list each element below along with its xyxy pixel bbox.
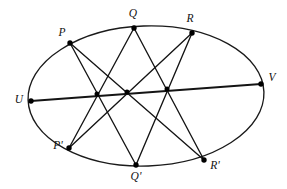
- point-label-Q2: Q': [131, 170, 142, 182]
- point-labels-group: PQRVUP'Q'R': [15, 7, 278, 182]
- intersection-dot-X3: [165, 87, 170, 92]
- vertex-dot-P2: [66, 145, 71, 150]
- vertex-dot-P: [67, 40, 72, 45]
- point-label-Q: Q: [129, 7, 138, 19]
- chord-Q-P-prime: [69, 28, 134, 148]
- point-label-P: P: [57, 26, 65, 38]
- vertex-dot-Q2: [133, 162, 138, 167]
- chord-P-R-prime: [70, 43, 204, 160]
- point-label-P2: P': [52, 139, 63, 151]
- chord-Q-R-prime: [134, 28, 204, 160]
- point-label-R2: R': [209, 159, 220, 171]
- point-label-U: U: [15, 93, 24, 105]
- conic-pascal-figure: PQRVUP'Q'R': [0, 0, 287, 189]
- vertex-dot-R: [189, 30, 194, 35]
- intersection-dot-X2: [125, 90, 130, 95]
- intersection-dot-X1: [95, 92, 100, 97]
- point-label-V: V: [268, 71, 277, 83]
- point-label-R: R: [185, 12, 193, 24]
- vertex-dot-U: [28, 98, 33, 103]
- geometry-diagram: PQRVUP'Q'R': [0, 0, 287, 189]
- pascal-line-uv: [31, 84, 261, 101]
- vertex-dot-V: [258, 81, 263, 86]
- vertex-dot-Q: [131, 25, 136, 30]
- chord-P-Q-prime: [70, 43, 136, 165]
- chord-R-Q-prime: [136, 33, 192, 165]
- vertex-dot-R2: [201, 157, 206, 162]
- vertex-dots-group: [28, 25, 263, 167]
